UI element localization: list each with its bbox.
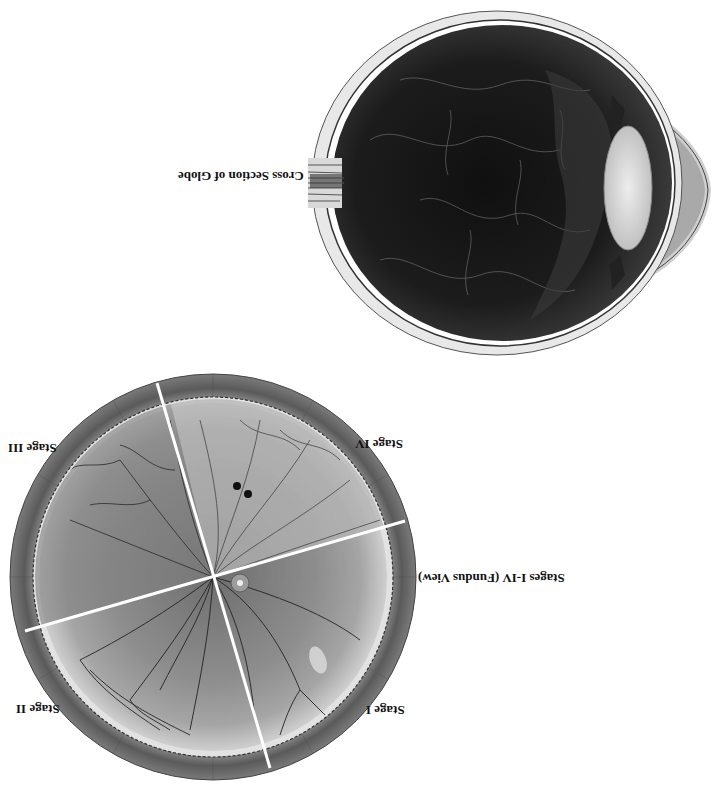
- globe-caption: Cross Section of Globe: [178, 168, 304, 184]
- stage-4-label: Stage IV: [355, 436, 403, 452]
- optic-nerve: [308, 158, 344, 208]
- lens: [604, 126, 652, 250]
- stage-2-label: Stage II: [16, 701, 60, 717]
- fundus-caption: Stages I-IV (Fundus View): [418, 570, 565, 586]
- globe-cross-section: [308, 11, 708, 355]
- eye-illustration: Cross Section of Globe Stages I-IV (Fund…: [0, 0, 727, 799]
- hemorrhage-spot: [233, 482, 241, 490]
- fundus-view: [10, 374, 416, 780]
- illustration-canvas: [0, 0, 727, 799]
- stage-3-label: Stage III: [8, 440, 57, 456]
- stage-1-label: Stage I: [366, 702, 405, 718]
- hemorrhage-spot: [244, 490, 252, 498]
